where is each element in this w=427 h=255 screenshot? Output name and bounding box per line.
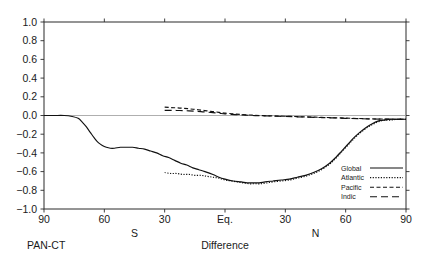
chart-legend: GlobalAtlanticPacificIndic <box>341 165 403 201</box>
y-tick-label: 1.0 <box>22 16 37 28</box>
y-tick-label: −0.8 <box>16 184 37 196</box>
legend-label-global: Global <box>341 165 362 172</box>
series-line-global <box>44 115 406 182</box>
y-axis-tick-labels: 1.00.80.60.40.20.0−0.2−0.4−0.6−0.8−1.0 <box>16 16 37 215</box>
y-tick-label: 0.2 <box>22 90 37 102</box>
x-tick-label: 30 <box>279 213 291 225</box>
series-line-indic <box>165 110 406 119</box>
y-tick-label: 0.0 <box>22 109 37 121</box>
x-tick-label: 90 <box>400 213 412 225</box>
legend-label-atlantic: Atlantic <box>341 174 364 181</box>
x-tick-label: 60 <box>340 213 352 225</box>
y-tick-label: 0.8 <box>22 34 37 46</box>
y-tick-label: −0.6 <box>16 165 37 177</box>
experiment-label: PAN-CT <box>27 239 66 251</box>
hemisphere-label-south: S <box>131 227 138 239</box>
x-tick-label: 60 <box>98 213 110 225</box>
figure-container: 1.00.80.60.40.20.0−0.2−0.4−0.6−0.8−1.0 9… <box>0 0 427 255</box>
x-tick-label: Eq. <box>217 213 233 225</box>
legend-label-indic: Indic <box>341 193 356 200</box>
y-tick-label: −0.4 <box>16 147 37 159</box>
series-line-atlantic <box>165 119 406 184</box>
chart-canvas: 1.00.80.60.40.20.0−0.2−0.4−0.6−0.8−1.0 9… <box>0 0 427 255</box>
y-tick-label: 0.4 <box>22 72 37 84</box>
series-line-pacific <box>165 107 406 119</box>
hemisphere-label-north: N <box>312 227 320 239</box>
x-tick-label: 90 <box>38 213 50 225</box>
y-tick-label: −0.2 <box>16 128 37 140</box>
x-axis-title: Difference <box>201 239 249 251</box>
y-tick-label: −1.0 <box>16 203 37 215</box>
x-tick-label: 30 <box>159 213 171 225</box>
x-axis-tick-labels: 906030Eq.306090 <box>38 213 412 225</box>
legend-label-pacific: Pacific <box>341 184 362 191</box>
data-series-group <box>44 107 406 184</box>
y-tick-label: 0.6 <box>22 53 37 65</box>
